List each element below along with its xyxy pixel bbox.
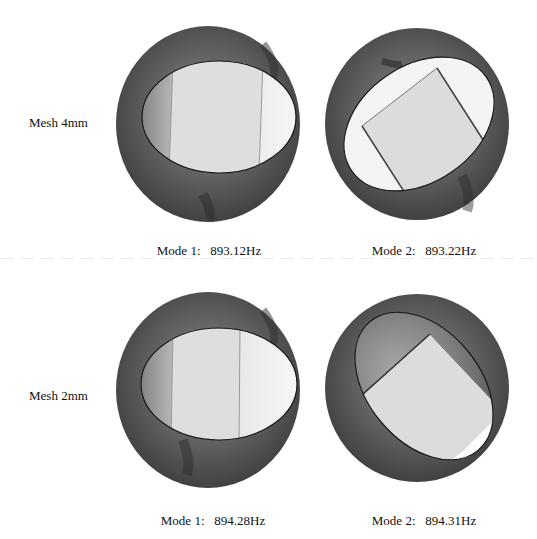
mode-shape-image-mesh4-mode2	[322, 26, 512, 226]
caption-mesh4-mode2: Mode 2: 893.22Hz	[324, 243, 524, 259]
caption-mesh2-mode1: Mode 1: 894.28Hz	[113, 513, 313, 529]
mode-shape-plot	[113, 24, 305, 226]
caption-mesh4-mode1: Mode 1: 893.12Hz	[109, 243, 309, 259]
mode-shape-image-mesh4-mode1	[113, 24, 305, 226]
row-label-mesh-4mm: Mesh 4mm	[29, 115, 88, 131]
row-label-mesh-2mm: Mesh 2mm	[29, 388, 88, 404]
mode-shape-image-mesh2-mode2	[322, 292, 512, 488]
mode-shape-plot	[113, 290, 305, 492]
mode-shape-image-mesh2-mode1	[113, 290, 305, 492]
caption-mesh2-mode2: Mode 2: 894.31Hz	[324, 513, 524, 529]
row-divider	[0, 258, 537, 259]
mode-shape-plot	[322, 292, 512, 488]
mode-shape-plot	[322, 26, 512, 226]
